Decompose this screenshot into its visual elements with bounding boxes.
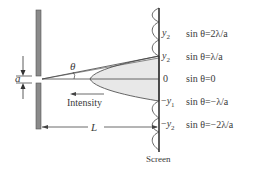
position-label-neg-y2: −y2 bbox=[161, 119, 175, 132]
condition-neg-2-lambda: sin θ=−2λ/a bbox=[186, 120, 233, 130]
position-label-zero: 0 bbox=[163, 74, 168, 84]
theta-label: θ bbox=[70, 61, 75, 72]
slit-arrowhead-top bbox=[21, 70, 26, 76]
side-lobes-upper bbox=[152, 8, 159, 56]
condition-2-lambda: sin θ=2λ/a bbox=[186, 29, 228, 39]
distance-arrowhead-right bbox=[152, 125, 158, 129]
barrier-upper bbox=[36, 10, 41, 76]
position-label-neg-y1: −y1 bbox=[161, 96, 175, 109]
intensity-label: Intensity bbox=[67, 98, 102, 108]
barrier-lower bbox=[36, 83, 41, 129]
slit-arrowhead-bottom bbox=[21, 83, 26, 89]
condition-lambda: sin θ=λ/a bbox=[186, 52, 223, 62]
position-label-y2: y2 bbox=[162, 51, 170, 64]
screen-label: Screen bbox=[146, 155, 171, 164]
condition-zero: sin θ=0 bbox=[186, 74, 216, 84]
position-label-y2-top: y2 bbox=[162, 28, 170, 41]
diffraction-diagram bbox=[0, 0, 255, 172]
distance-label: L bbox=[91, 122, 97, 133]
slit-width-label: a bbox=[15, 73, 21, 84]
distance-arrowhead-left bbox=[42, 125, 48, 129]
intensity-arrowhead bbox=[70, 92, 76, 96]
condition-neg-lambda: sin θ=−λ/a bbox=[186, 97, 228, 107]
